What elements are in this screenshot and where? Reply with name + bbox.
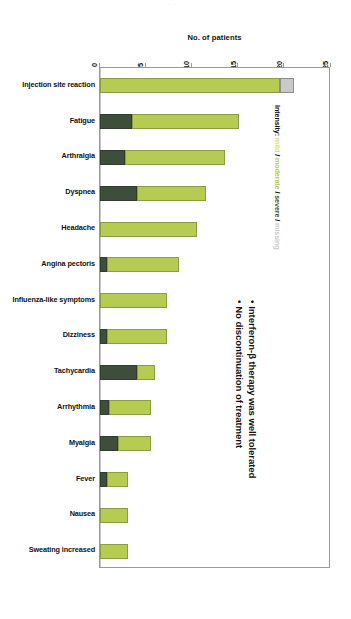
bullet-text: Interferon-β therapy was well tolerated <box>247 306 258 478</box>
bar-row <box>100 472 128 487</box>
bullet-text: No discontinuation of treatment <box>234 306 245 448</box>
category-label: Dyspnea <box>3 187 95 197</box>
bullet-item: •Interferon-β therapy was well tolerated <box>247 300 258 478</box>
category-label: Injection site reaction <box>3 80 95 90</box>
legend-item-missing: missing <box>273 223 282 249</box>
legend-item-mild: mild <box>273 138 282 152</box>
bar-segment-moderate <box>107 329 167 344</box>
legend-text: Intensity: mild / moderate / severe / mi… <box>273 105 282 250</box>
category-label: Nausea <box>3 509 95 519</box>
bar-segment-missing <box>280 78 294 93</box>
bar-segment-severe <box>100 186 137 201</box>
category-label: Dizziness <box>3 330 95 340</box>
chart-legend: Intensity: mild / moderate / severe / mi… <box>271 105 293 225</box>
bar-row <box>100 436 151 451</box>
bar-row <box>100 293 167 308</box>
bar-segment-severe <box>100 472 107 487</box>
legend-item-severe: severe <box>273 195 282 217</box>
bar-segment-moderate <box>109 400 151 415</box>
bar-segment-severe <box>100 257 107 272</box>
bar-segment-moderate <box>100 508 128 523</box>
category-label: Sweating increased <box>3 545 95 555</box>
bar-segment-moderate <box>137 186 206 201</box>
bullet-list-inner: •Interferon-β therapy was well tolerated… <box>232 300 258 478</box>
axis-zero-line <box>100 68 101 567</box>
bar-segment-severe <box>100 150 125 165</box>
category-label: Myalgia <box>3 438 95 448</box>
bar-segment-moderate <box>100 78 280 93</box>
bar-row <box>100 186 206 201</box>
bar-segment-moderate <box>100 222 197 237</box>
bar-row <box>100 257 179 272</box>
category-label: Tachycardia <box>3 366 95 376</box>
bar-segment-moderate <box>100 293 167 308</box>
bar-row <box>100 508 128 523</box>
bar-row <box>100 222 197 237</box>
bar-row <box>100 114 239 129</box>
category-label: Influenza-like symptoms <box>3 295 95 305</box>
bar-segment-severe <box>100 365 137 380</box>
bar-row <box>100 78 294 93</box>
bar-row <box>100 400 151 415</box>
legend-title: Intensity: <box>273 105 282 138</box>
bar-segment-severe <box>100 114 132 129</box>
category-label: Arrhythmia <box>3 402 95 412</box>
bar-segment-moderate <box>137 365 155 380</box>
legend-item-moderate: moderate <box>273 158 282 190</box>
bullet-marker-icon: • <box>234 300 245 303</box>
category-label: Fever <box>3 474 95 484</box>
bar-segment-moderate <box>125 150 225 165</box>
slide-canvas: · · · No. of patients 0510152025 Intensi… <box>0 0 351 619</box>
bar-row <box>100 329 167 344</box>
category-label: Arthralgia <box>3 151 95 161</box>
bar-row <box>100 150 225 165</box>
bar-segment-moderate <box>118 436 150 451</box>
bar-row <box>100 365 155 380</box>
faint-header-artifact: · · · <box>0 1 351 7</box>
bullet-marker-icon: • <box>247 300 258 303</box>
bar-row <box>100 544 128 559</box>
bar-segment-moderate <box>132 114 238 129</box>
x-axis-ticks: 0510152025 <box>99 40 330 67</box>
bar-segment-moderate <box>100 544 128 559</box>
bar-segment-severe <box>100 329 107 344</box>
bar-segment-moderate <box>107 472 127 487</box>
bullet-item: •No discontinuation of treatment <box>234 300 245 478</box>
category-label: Headache <box>3 223 95 233</box>
category-label: Angina pectoris <box>3 259 95 269</box>
bullet-list: •Interferon-β therapy was well tolerated… <box>258 300 318 600</box>
bar-segment-severe <box>100 400 109 415</box>
bar-segment-severe <box>100 436 118 451</box>
category-label: Fatigue <box>3 116 95 126</box>
bar-segment-moderate <box>107 257 178 272</box>
